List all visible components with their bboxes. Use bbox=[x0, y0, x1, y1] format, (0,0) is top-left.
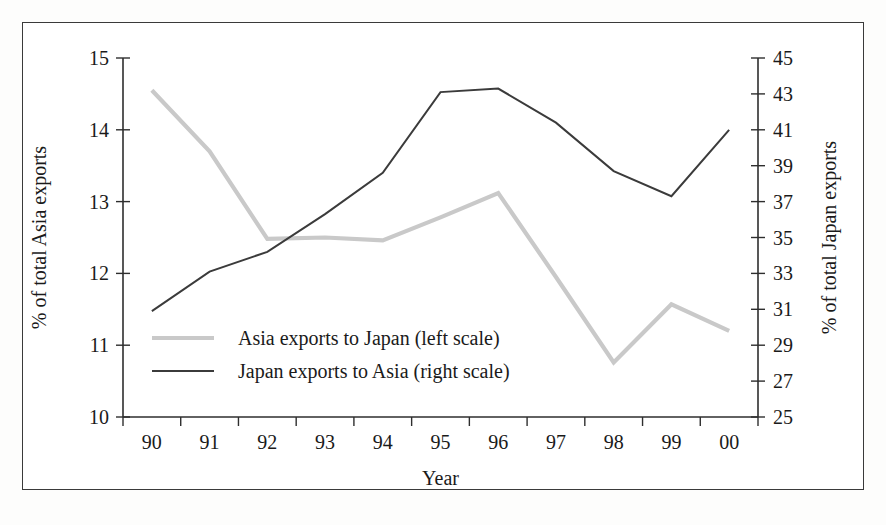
left-axis-tick-label: 14 bbox=[89, 119, 109, 141]
x-axis-tick-label: 00 bbox=[719, 431, 739, 453]
left-axis-tick-label: 11 bbox=[90, 334, 109, 356]
x-axis-title: Year bbox=[422, 467, 459, 489]
left-axis-tick-label: 15 bbox=[89, 47, 109, 69]
legend-label-1: Japan exports to Asia (right scale) bbox=[238, 360, 510, 383]
x-axis-tick-label: 93 bbox=[315, 431, 335, 453]
figure-container: 1011121314152527293133353739414345909192… bbox=[0, 0, 886, 525]
right-axis-tick-label: 45 bbox=[773, 47, 793, 69]
left-axis-tick-label: 13 bbox=[89, 191, 109, 213]
right-axis-tick-label: 41 bbox=[773, 119, 793, 141]
legend-label-0: Asia exports to Japan (left scale) bbox=[238, 327, 500, 350]
tick-labels-group: 1011121314152527293133353739414345909192… bbox=[89, 47, 793, 453]
right-axis-title: % of total Japan exports bbox=[818, 141, 841, 334]
x-axis-tick-label: 95 bbox=[431, 431, 451, 453]
line-chart: 1011121314152527293133353739414345909192… bbox=[0, 0, 886, 525]
series-group bbox=[152, 89, 729, 363]
left-axis-tick-label: 12 bbox=[89, 262, 109, 284]
x-axis-tick-label: 96 bbox=[488, 431, 508, 453]
x-axis-tick-label: 90 bbox=[142, 431, 162, 453]
x-axis-tick-label: 94 bbox=[373, 431, 393, 453]
right-axis-tick-label: 31 bbox=[773, 298, 793, 320]
legend-group: Asia exports to Japan (left scale)Japan … bbox=[152, 327, 510, 383]
right-axis-tick-label: 35 bbox=[773, 227, 793, 249]
x-axis-tick-label: 97 bbox=[546, 431, 566, 453]
right-axis-tick-label: 33 bbox=[773, 262, 793, 284]
x-axis-tick-label: 98 bbox=[604, 431, 624, 453]
right-axis-tick-label: 43 bbox=[773, 83, 793, 105]
left-axis-title: % of total Asia exports bbox=[28, 146, 51, 330]
right-axis-tick-label: 27 bbox=[773, 370, 793, 392]
right-axis-tick-label: 37 bbox=[773, 191, 793, 213]
right-axis-tick-label: 25 bbox=[773, 406, 793, 428]
left-axis-tick-label: 10 bbox=[89, 406, 109, 428]
x-axis-tick-label: 91 bbox=[200, 431, 220, 453]
right-axis-tick-label: 29 bbox=[773, 334, 793, 356]
x-axis-tick-label: 92 bbox=[257, 431, 277, 453]
x-axis-tick-label: 99 bbox=[661, 431, 681, 453]
series-line-japan-exports-to-asia bbox=[152, 89, 729, 312]
series-line-asia-exports-to-japan bbox=[152, 90, 729, 362]
right-axis-tick-label: 39 bbox=[773, 155, 793, 177]
